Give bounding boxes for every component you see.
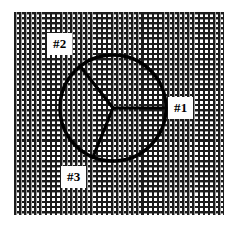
sector-label-2: #2 — [47, 33, 72, 55]
sector-label-1: #1 — [168, 97, 193, 119]
figure-canvas: #2 #1 #3 — [0, 0, 237, 227]
sector-label-3: #3 — [61, 166, 86, 188]
spoke-upper-left — [80, 66, 113, 108]
circle-diagram-overlay — [0, 0, 237, 227]
spoke-lower-left — [93, 108, 113, 157]
